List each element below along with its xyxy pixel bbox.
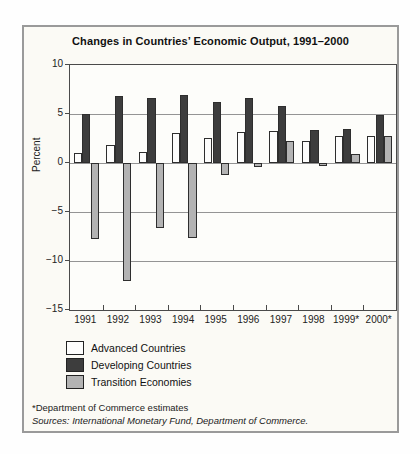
x-tick-label: 2000* <box>362 314 395 325</box>
transition-economies-swatch <box>66 375 84 389</box>
footnote-sources: Sources: International Monetary Fund, De… <box>32 414 392 427</box>
x-tick-mark <box>103 305 104 310</box>
bar-developing-1997 <box>278 106 286 163</box>
developing-countries-swatch <box>66 358 84 372</box>
legend-item-transition: Transition Economies <box>66 373 192 390</box>
bar-transition-1994 <box>188 163 196 238</box>
bar-advanced-1995 <box>204 138 212 164</box>
y-tick-mark <box>65 113 69 114</box>
legend-label: Developing Countries <box>91 359 191 371</box>
x-tick-label: 1995 <box>199 314 232 325</box>
y-tick-label: −10 <box>39 254 63 265</box>
bar-transition-1992 <box>123 163 131 281</box>
bar-transition-1995 <box>221 163 229 175</box>
bar-advanced-1999 <box>335 136 343 163</box>
bar-developing-1992 <box>115 96 123 163</box>
x-tick-mark <box>331 305 332 310</box>
legend-label: Transition Economies <box>91 376 192 388</box>
bar-advanced-1992 <box>106 145 114 163</box>
advanced-countries-swatch <box>66 341 84 355</box>
bar-transition-1997 <box>286 141 294 163</box>
x-tick-mark <box>200 305 201 310</box>
y-tick-label: −5 <box>39 205 63 216</box>
x-tick-mark <box>233 305 234 310</box>
footnotes: *Department of Commerce estimates Source… <box>32 401 392 427</box>
bar-developing-2000 <box>376 115 384 163</box>
y-tick-mark <box>65 260 69 261</box>
bar-advanced-1994 <box>172 133 180 163</box>
y-tick-mark <box>65 162 69 163</box>
x-tick-label: 1996 <box>232 314 265 325</box>
legend-label: Advanced Countries <box>91 342 186 354</box>
bar-advanced-1997 <box>269 131 277 163</box>
x-tick-label: 1998 <box>297 314 330 325</box>
bar-transition-2000 <box>384 136 392 163</box>
bar-developing-1995 <box>213 102 221 163</box>
x-tick-label: 1991 <box>69 314 102 325</box>
x-tick-mark <box>266 305 267 310</box>
bar-transition-1991 <box>91 163 99 239</box>
gridline <box>70 212 396 213</box>
x-tick-mark <box>363 305 364 310</box>
x-tick-mark <box>168 305 169 310</box>
chart-title: Changes in Countries’ Economic Output, 1… <box>24 35 397 47</box>
bar-developing-1993 <box>147 98 155 163</box>
bar-advanced-1993 <box>139 152 147 163</box>
bar-transition-1998 <box>319 163 327 166</box>
x-tick-label: 1997 <box>265 314 298 325</box>
bar-developing-1991 <box>82 114 90 163</box>
y-tick-label: −15 <box>39 303 63 314</box>
bar-developing-1998 <box>310 130 318 163</box>
legend: Advanced Countries Developing Countries … <box>66 339 192 390</box>
bar-developing-1994 <box>180 95 188 163</box>
bar-transition-1996 <box>254 163 262 167</box>
x-tick-label: 1993 <box>134 314 167 325</box>
chart-figure: Changes in Countries’ Economic Output, 1… <box>22 25 399 433</box>
y-tick-label: 10 <box>39 58 63 69</box>
bar-advanced-1996 <box>237 132 245 163</box>
bar-developing-1999 <box>343 129 351 163</box>
y-tick-mark <box>65 211 69 212</box>
y-tick-mark <box>65 309 69 310</box>
bar-transition-1999 <box>351 154 359 163</box>
x-tick-mark <box>135 305 136 310</box>
legend-item-developing: Developing Countries <box>66 356 192 373</box>
y-tick-mark <box>65 64 69 65</box>
bar-transition-1993 <box>156 163 164 228</box>
y-tick-label: 5 <box>39 107 63 118</box>
gridline <box>70 261 396 262</box>
x-tick-label: 1992 <box>102 314 135 325</box>
bar-advanced-1998 <box>302 141 310 163</box>
y-tick-label: 0 <box>39 156 63 167</box>
bar-advanced-2000 <box>367 136 375 163</box>
footnote-estimates: *Department of Commerce estimates <box>32 401 392 414</box>
x-tick-label: 1994 <box>167 314 200 325</box>
x-tick-label: 1999* <box>330 314 363 325</box>
page: Changes in Countries’ Economic Output, 1… <box>0 0 420 454</box>
legend-item-advanced: Advanced Countries <box>66 339 192 356</box>
plot-area <box>69 64 397 311</box>
bar-developing-1996 <box>245 98 253 163</box>
bar-advanced-1991 <box>74 153 82 163</box>
x-tick-mark <box>298 305 299 310</box>
